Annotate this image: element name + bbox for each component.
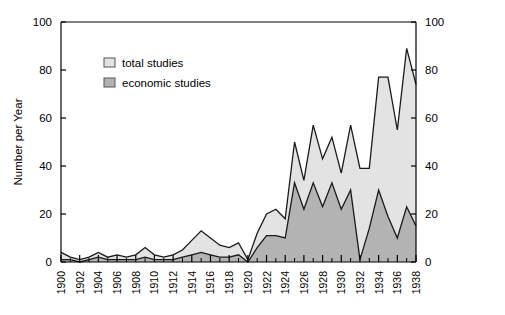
legend-label-economic-studies: economic studies	[122, 77, 211, 89]
y-axis-left-tick-labels: 020406080100	[33, 16, 52, 268]
y-tick-label-right-100: 100	[425, 16, 444, 28]
y-tick-label-right-60: 60	[425, 112, 438, 124]
x-tick-label-1904: 1904	[92, 271, 104, 295]
x-tick-label-1908: 1908	[130, 271, 142, 295]
y-axis-right-tick-labels: 020406080100	[425, 16, 444, 268]
chart-container: 020406080100 020406080100 19001902190419…	[0, 0, 505, 315]
x-tick-label-1900: 1900	[55, 271, 67, 295]
x-tick-label-1916: 1916	[204, 271, 216, 295]
y-tick-label-left-0: 0	[46, 256, 52, 268]
x-axis-tick-labels: 1900190219041906190819101912191419161918…	[55, 271, 422, 295]
y-tick-label-left-80: 80	[39, 64, 52, 76]
x-tick-label-1912: 1912	[167, 271, 179, 295]
area-chart: 020406080100 020406080100 19001902190419…	[0, 0, 505, 315]
x-tick-label-1930: 1930	[335, 271, 347, 295]
legend-swatch-economic-studies	[104, 78, 115, 87]
x-tick-label-1902: 1902	[74, 271, 86, 295]
y-tick-label-left-20: 20	[39, 208, 52, 220]
legend-swatch-total-studies	[104, 58, 115, 67]
x-tick-label-1926: 1926	[298, 271, 310, 295]
x-tick-label-1932: 1932	[354, 271, 366, 295]
y-tick-label-left-60: 60	[39, 112, 52, 124]
x-tick-label-1910: 1910	[148, 271, 160, 295]
x-tick-label-1918: 1918	[223, 271, 235, 295]
y-tick-label-left-100: 100	[33, 16, 52, 28]
y-axis-title: Number per Year	[12, 98, 24, 185]
x-tick-label-1924: 1924	[279, 271, 291, 295]
x-tick-label-1936: 1936	[391, 271, 403, 295]
x-tick-label-1906: 1906	[111, 271, 123, 295]
y-tick-label-right-40: 40	[425, 160, 438, 172]
x-tick-label-1928: 1928	[317, 271, 329, 295]
x-tick-label-1920: 1920	[242, 271, 254, 295]
x-tick-label-1938: 1938	[410, 271, 422, 295]
x-tick-label-1914: 1914	[186, 271, 198, 295]
x-tick-label-1922: 1922	[261, 271, 273, 295]
y-tick-label-right-20: 20	[425, 208, 438, 220]
y-tick-label-right-80: 80	[425, 64, 438, 76]
y-tick-label-left-40: 40	[39, 160, 52, 172]
legend-label-total-studies: total studies	[122, 57, 184, 69]
x-tick-label-1934: 1934	[373, 271, 385, 295]
y-tick-label-right-0: 0	[425, 256, 431, 268]
